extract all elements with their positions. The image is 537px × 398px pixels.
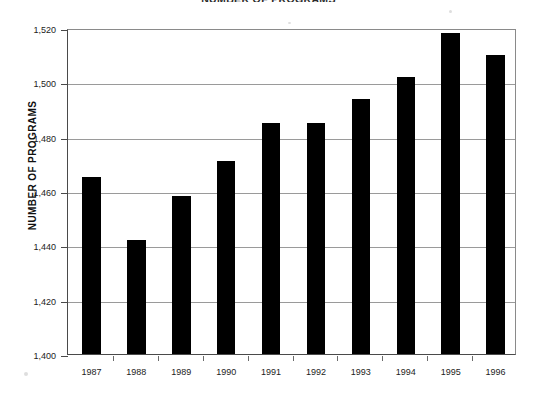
x-axis-tick xyxy=(203,356,204,361)
x-axis-tick xyxy=(113,356,114,361)
x-axis-tick-label: 1989 xyxy=(158,367,204,377)
y-axis-tick xyxy=(61,30,68,31)
y-axis-tick xyxy=(61,302,68,303)
y-axis-tick-label: 1,480 xyxy=(0,134,56,144)
y-axis-tick-label: 1,420 xyxy=(0,297,56,307)
x-axis-tick xyxy=(427,356,428,361)
y-axis-tick xyxy=(61,139,68,140)
x-axis-tick-label: 1996 xyxy=(473,367,519,377)
x-axis-tick xyxy=(293,356,294,361)
x-axis-tick-label: 1990 xyxy=(203,367,249,377)
scan-speck xyxy=(449,10,452,13)
x-axis-tick-label: 1988 xyxy=(113,367,159,377)
y-axis-tick-label: 1,440 xyxy=(0,242,56,252)
bar xyxy=(217,161,236,354)
bar xyxy=(397,77,416,354)
x-axis-tick xyxy=(248,356,249,361)
y-axis-tick xyxy=(61,356,68,357)
bar xyxy=(82,177,101,354)
x-axis-tick xyxy=(158,356,159,361)
x-axis-tick-label: 1995 xyxy=(428,367,474,377)
bar xyxy=(307,123,326,354)
y-axis-tick-label: 1,520 xyxy=(0,25,56,35)
x-axis-tick-label: 1993 xyxy=(338,367,384,377)
y-axis-title: NUMBER OF PROGRAMS xyxy=(27,16,38,316)
bar xyxy=(127,240,146,354)
y-axis-tick-label: 1,400 xyxy=(0,351,56,361)
scan-speck xyxy=(288,22,291,24)
x-axis-tick-label: 1987 xyxy=(68,367,114,377)
bar xyxy=(441,33,460,354)
bar xyxy=(172,196,191,354)
y-axis-tick xyxy=(61,193,68,194)
x-axis-tick xyxy=(472,356,473,361)
y-axis-tick-label: 1,500 xyxy=(0,79,56,89)
chart-title: NUMBER OF PROGRAMS xyxy=(0,0,537,2)
x-axis-tick xyxy=(337,356,338,361)
scan-speck xyxy=(24,372,28,376)
x-axis-tick-label: 1991 xyxy=(248,367,294,377)
y-axis-tick xyxy=(61,247,68,248)
bar-chart: NUMBER OF PROGRAMS NUMBER OF PROGRAMS 1,… xyxy=(0,0,537,398)
plot-area: 1,5201,5001,4801,4601,4401,4201,40019871… xyxy=(67,29,516,355)
bar xyxy=(352,99,371,354)
y-axis-tick xyxy=(61,84,68,85)
y-axis-tick-label: 1,460 xyxy=(0,188,56,198)
bar xyxy=(486,55,505,354)
x-axis-tick-label: 1994 xyxy=(383,367,429,377)
x-axis-tick xyxy=(382,356,383,361)
x-axis-tick-label: 1992 xyxy=(293,367,339,377)
bar xyxy=(262,123,281,354)
